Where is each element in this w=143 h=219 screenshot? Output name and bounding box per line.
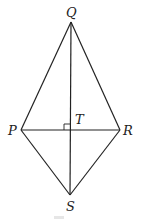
- kite-diagram: Q P R S T: [0, 0, 143, 219]
- label-s: S: [66, 199, 75, 214]
- right-angle-marker: [64, 124, 71, 130]
- segment-qs: [70, 22, 71, 195]
- decorative-mark: [54, 216, 64, 219]
- label-r: R: [122, 123, 133, 138]
- segment-rs: [70, 130, 120, 195]
- segment-ps: [21, 130, 70, 195]
- label-t: T: [75, 112, 85, 127]
- segment-qp: [21, 22, 71, 130]
- label-p: P: [7, 123, 17, 138]
- label-q: Q: [66, 5, 77, 20]
